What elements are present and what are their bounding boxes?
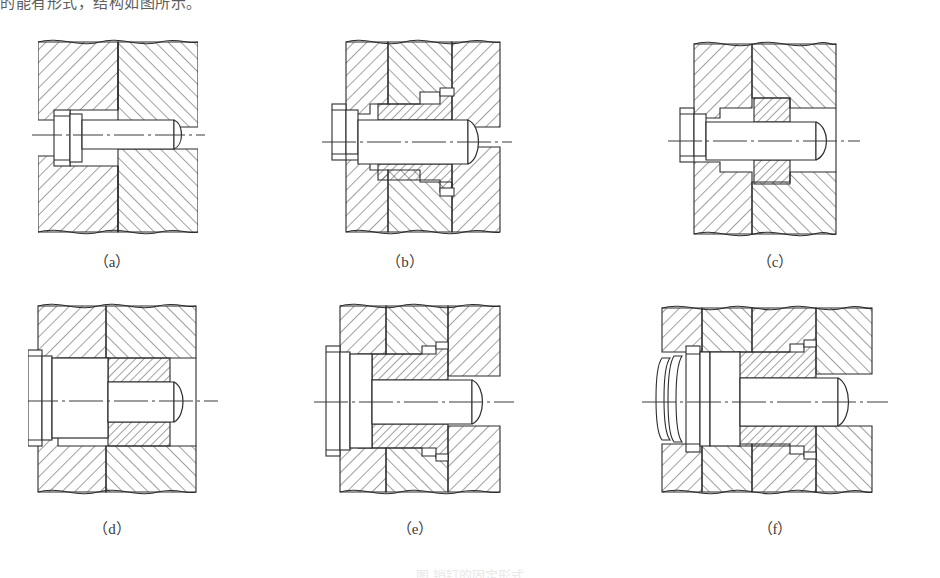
- figure-c: [660, 32, 890, 242]
- figure-f: [640, 296, 905, 501]
- figure-label-b: （b）: [375, 250, 435, 271]
- cropped-body-text: 的能有形式，结构如图所示。: [0, 0, 340, 11]
- figure-d: [28, 296, 243, 501]
- figure-a: [30, 32, 240, 242]
- figure-label-d: （d）: [82, 517, 142, 538]
- figure-label-f: （f）: [745, 517, 805, 538]
- cropped-figure-caption: 图 销钉的固定形式: [0, 564, 940, 578]
- figure-label-c: （c）: [745, 250, 805, 271]
- figure-label-a: （a）: [82, 250, 142, 271]
- figure-b: [300, 32, 530, 242]
- figure-page: 的能有形式，结构如图所示。: [0, 0, 940, 578]
- figure-e: [300, 296, 535, 501]
- figure-label-e: （e）: [385, 517, 445, 538]
